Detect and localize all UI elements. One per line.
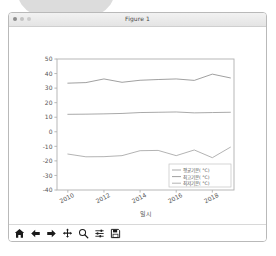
figure-canvas[interactable]: -40-30-20-100102030405020102012201420162… bbox=[9, 27, 266, 228]
y-tick-label: 20 bbox=[45, 99, 53, 106]
x-axis-label: 일시 bbox=[140, 210, 152, 217]
x-tick-label: 2010 bbox=[58, 191, 75, 204]
y-tick-label: 30 bbox=[45, 84, 53, 91]
legend-label-0: 평균기온( °C) bbox=[183, 167, 210, 174]
series-line-0 bbox=[68, 112, 231, 114]
y-tick-label: -20 bbox=[43, 157, 53, 164]
y-tick-label: 0 bbox=[49, 128, 53, 135]
series-line-1 bbox=[68, 74, 231, 83]
y-tick-label: -30 bbox=[43, 172, 53, 179]
zoom-magnifier-icon[interactable] bbox=[77, 227, 89, 239]
x-tick-label: 2012 bbox=[94, 191, 111, 204]
x-tick-label: 2018 bbox=[203, 191, 220, 204]
save-floppy-icon[interactable] bbox=[109, 227, 121, 239]
y-tick-label: 50 bbox=[45, 55, 53, 62]
pan-move-icon[interactable] bbox=[61, 227, 73, 239]
figure-window: Figure 1 -40-30-20-100102030405020102012… bbox=[8, 12, 267, 242]
window-titlebar[interactable]: Figure 1 bbox=[9, 13, 266, 27]
home-icon[interactable] bbox=[13, 227, 25, 239]
y-tick-label: 10 bbox=[45, 113, 53, 120]
y-tick-label: -10 bbox=[43, 143, 53, 150]
configure-subplots-icon[interactable] bbox=[93, 227, 105, 239]
window-title: Figure 1 bbox=[9, 15, 266, 22]
forward-arrow-icon[interactable] bbox=[45, 227, 57, 239]
legend-label-1: 최고기온( °C) bbox=[183, 174, 210, 181]
series-line-2 bbox=[68, 147, 231, 157]
y-tick-label: -40 bbox=[43, 186, 53, 193]
temperature-line-chart: -40-30-20-100102030405020102012201420162… bbox=[9, 27, 266, 228]
x-tick-label: 2016 bbox=[167, 191, 184, 204]
legend-label-2: 최저기온( °C) bbox=[183, 180, 210, 187]
back-arrow-icon[interactable] bbox=[29, 227, 41, 239]
x-tick-label: 2014 bbox=[131, 191, 148, 204]
y-tick-label: 40 bbox=[45, 70, 53, 77]
matplotlib-navigation-toolbar[interactable] bbox=[9, 224, 266, 241]
